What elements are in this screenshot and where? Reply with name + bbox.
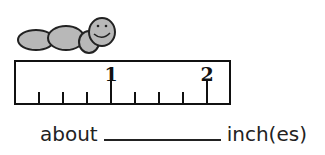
ruler-tick — [62, 92, 64, 103]
worm-icon — [14, 15, 116, 55]
answer-suffix: inch(es) — [227, 122, 307, 146]
ruler-tick-inch — [206, 81, 208, 103]
ruler-tick — [182, 92, 184, 103]
ruler-tick — [38, 92, 40, 103]
ruler-tick — [158, 92, 160, 103]
answer-blank[interactable] — [104, 138, 221, 141]
ruler-tick — [134, 92, 136, 103]
answer-line: aboutinch(es) — [40, 122, 307, 146]
ruler-tick — [86, 92, 88, 103]
answer-prefix: about — [40, 122, 98, 146]
ruler-tick-inch — [110, 81, 112, 103]
ruler: 1 2 — [14, 60, 231, 105]
